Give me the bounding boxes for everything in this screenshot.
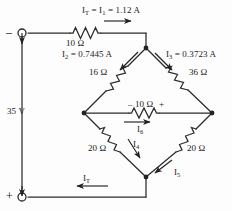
label-current-i6: I6 (137, 125, 143, 134)
label-source-voltage: 35 V (7, 107, 25, 116)
label-total-current-bottom: IT (83, 174, 90, 183)
circuit-schematic-svg (0, 0, 232, 211)
label-resistor-20ohm-left: 20 Ω (88, 144, 106, 153)
label-current-i3: I3 = 0.3723 A (166, 50, 216, 59)
label-current-i4: I4 (133, 140, 139, 149)
terminal-negative-sign: – (6, 26, 12, 38)
label-resistor-36ohm: 36 Ω (189, 68, 207, 77)
arrow-i2 (120, 52, 138, 70)
label-current-i5: I5 (174, 168, 180, 177)
label-resistor-20ohm-right: 20 Ω (187, 144, 205, 153)
label-bridge-polarity-plus: + (159, 100, 164, 109)
resistor-10ohm-bridge (129, 108, 159, 118)
branch-lower-left-a (84, 113, 100, 129)
branch-upper-left-b (84, 91, 106, 113)
label-resistor-16ohm: 16 Ω (89, 68, 107, 77)
node-right (210, 111, 215, 116)
resistor-36ohm (166, 67, 188, 91)
branch-lower-left-b (120, 152, 146, 177)
node-top (144, 46, 149, 51)
label-resistor-10ohm-bridge: 10 Ω (135, 100, 153, 109)
branch-lower-right-b (146, 152, 176, 177)
label-current-i2: I2 = 0.7445 A (62, 50, 112, 59)
branch-lower-right-a (196, 113, 212, 129)
resistor-16ohm (106, 66, 128, 91)
node-left (82, 111, 87, 116)
branch-upper-right-b (188, 90, 212, 113)
circuit-diagram: IT = I1 = 1.12 A 10 Ω I2 = 0.7445 A I3 =… (0, 0, 232, 211)
node-bottom (144, 175, 149, 180)
branch-upper-left-a (128, 48, 146, 66)
terminal-positive-sign: + (6, 190, 13, 202)
label-total-current-top: IT = I1 = 1.12 A (82, 6, 140, 15)
label-bridge-polarity-minus: – (128, 100, 133, 109)
label-resistor-10ohm-series: 10 Ω (66, 39, 84, 48)
resistor-10ohm-series (70, 28, 101, 39)
branch-upper-right-a (146, 48, 166, 68)
